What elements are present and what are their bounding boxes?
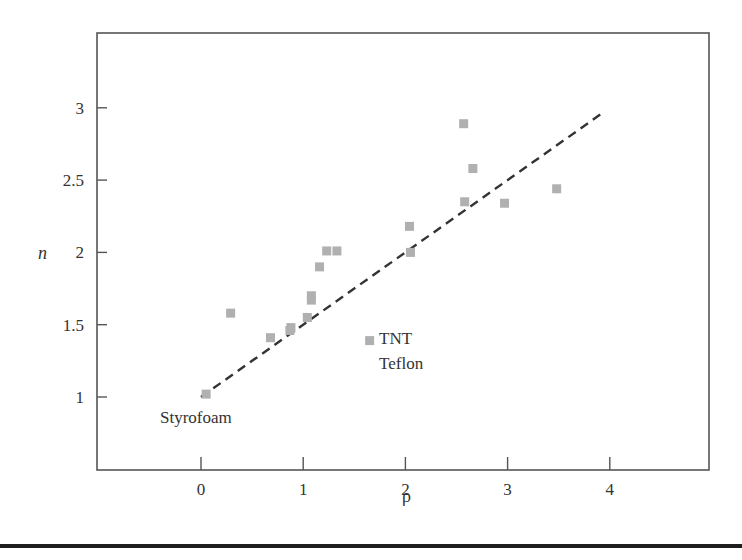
y-tick-label: 1 [76, 388, 85, 407]
data-point [468, 164, 477, 173]
data-point [266, 333, 275, 342]
x-tick-label: 4 [606, 480, 615, 499]
data-point [405, 222, 414, 231]
data-point [365, 336, 374, 345]
y-axis-ticks: 11.522.53 [63, 99, 107, 407]
x-tick-label: 0 [197, 480, 206, 499]
x-tick-label: 1 [299, 480, 308, 499]
y-tick-label: 3 [76, 99, 85, 118]
x-axis-title: ρ [402, 486, 411, 506]
y-tick-label: 2 [76, 243, 85, 262]
data-point [500, 199, 509, 208]
annotation-teflon: Teflon [379, 354, 424, 373]
data-point [286, 323, 295, 332]
bottom-rule [0, 544, 742, 548]
scatter-chart: 01234 11.522.53 n ρ Styrofoam TNT Teflon [0, 0, 742, 560]
plot-frame [97, 33, 709, 470]
y-tick-label: 2.5 [63, 171, 84, 190]
annotation-tnt: TNT [379, 329, 413, 348]
data-point [459, 119, 468, 128]
x-tick-label: 3 [503, 480, 512, 499]
annotation-styrofoam: Styrofoam [160, 408, 232, 427]
y-tick-label: 1.5 [63, 316, 84, 335]
data-point [332, 246, 341, 255]
y-axis-title: n [38, 243, 47, 263]
data-point [303, 313, 312, 322]
data-point [226, 309, 235, 318]
data-point [460, 197, 469, 206]
data-point [202, 390, 211, 399]
data-point [322, 246, 331, 255]
data-point [307, 291, 316, 300]
data-point [315, 262, 324, 271]
data-point [552, 184, 561, 193]
data-point [406, 248, 415, 257]
